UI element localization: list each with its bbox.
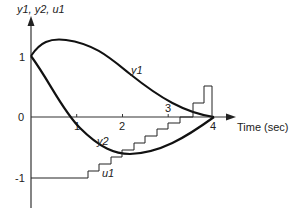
chart: y1, y2, u1 Time (sec) 1 0 -1 1 2 3 4 y1 … [0,0,302,218]
x-axis-label: Time (sec) [237,121,289,133]
x-tick-3: 3 [165,102,171,114]
label-y2: y2 [96,135,109,147]
label-u1: u1 [102,167,114,179]
x-tick-4: 4 [210,120,216,132]
y-tick-neg1: -1 [15,172,25,184]
x-tick-2: 2 [119,120,125,132]
y-axis-arrow-icon [28,16,35,26]
series-y2 [31,56,214,154]
series-y1 [31,40,214,117]
y-tick-1: 1 [19,51,25,63]
label-y1: y1 [130,64,143,76]
y-tick-0: 0 [18,111,24,123]
y-axis-label: y1, y2, u1 [16,3,65,15]
x-axis-arrow-icon [226,114,236,121]
